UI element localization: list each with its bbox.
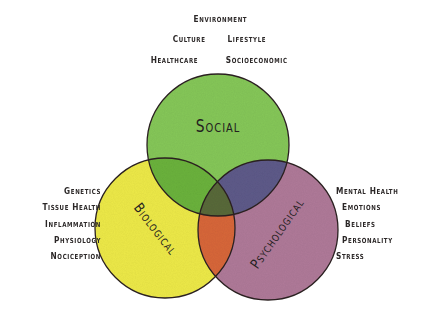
- factor-beliefs: Beliefs: [345, 216, 408, 232]
- social-factors: Environment CultureLifestyle HealthcareS…: [120, 7, 320, 68]
- factor-socioeconomic: Socioeconomic: [225, 52, 287, 68]
- social-factors-row-2: CultureLifestyle: [120, 27, 320, 47]
- social-title: Social: [196, 117, 241, 137]
- psychological-factors: Mental Health Emotions Beliefs Personali…: [336, 183, 426, 264]
- social-factors-row-3: HealthcareSocioeconomic: [120, 48, 320, 68]
- factor-culture: Culture: [173, 31, 206, 47]
- factor-environment: Environment: [193, 11, 247, 27]
- factor-inflammation: Inflammation: [22, 216, 101, 232]
- factor-personality: Personality: [342, 232, 408, 248]
- factor-stress: Stress: [336, 248, 406, 264]
- factor-lifestyle: Lifestyle: [228, 31, 267, 47]
- factor-emotions: Emotions: [342, 199, 408, 215]
- factor-healthcare: Healthcare: [151, 52, 198, 68]
- social-factors-row-1: Environment: [120, 7, 320, 27]
- factor-mental-health: Mental Health: [336, 183, 406, 199]
- factor-physiology: Physiology: [22, 232, 101, 248]
- factor-genetics: Genetics: [22, 183, 101, 199]
- factor-tissue-health: Tissue Health: [22, 199, 101, 215]
- factor-nociception: Nociception: [22, 248, 101, 264]
- biological-factors: Genetics Tissue Health Inflammation Phys…: [0, 183, 101, 264]
